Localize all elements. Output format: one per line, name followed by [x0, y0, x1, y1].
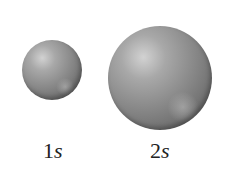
orbital-1s-letter: s [54, 138, 63, 163]
orbital-1s-sphere [22, 40, 82, 100]
orbital-2s-number: 2 [150, 138, 161, 163]
orbital-2s-sphere [108, 26, 212, 130]
orbital-2s-letter: s [161, 138, 170, 163]
orbital-1s-number: 1 [43, 138, 54, 163]
orbital-2s-label: 2s [150, 140, 170, 162]
orbital-1s-label: 1s [43, 140, 63, 162]
